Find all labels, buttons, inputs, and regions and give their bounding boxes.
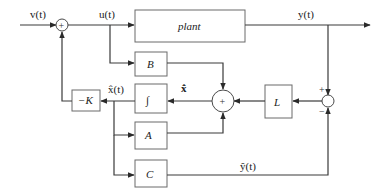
B-to-sum-line [167, 63, 223, 89]
label-v: v(t) [30, 8, 46, 21]
observer-sum-sign: + [220, 96, 226, 107]
label-xhat-dot: x̂̇ [181, 82, 187, 94]
xhat-to-A-line [114, 101, 134, 135]
label-yhat: ŷ(t) [240, 160, 256, 173]
integrator-block: ∫ [135, 84, 167, 113]
K-feedback-line [62, 32, 72, 101]
xhat-to-C-line [114, 135, 134, 175]
plant-label: plant [177, 20, 202, 32]
plant-block: plant [135, 10, 245, 42]
label-y: y(t) [298, 8, 314, 21]
gain-K-block: −K [72, 90, 100, 111]
u-to-B-line [110, 25, 134, 63]
label-xhat: x̂(t) [108, 83, 124, 96]
B-label: B [147, 58, 154, 70]
C-label: C [146, 168, 154, 180]
observer-block-diagram: v(t) + u(t) plant y(t) + − L + B [0, 0, 390, 195]
L-block: L [265, 85, 292, 118]
input-sum-sign: + [59, 20, 65, 31]
observer-sum-junction: + [212, 90, 234, 112]
input-sum-junction: + [56, 19, 68, 31]
C-block: C [135, 160, 167, 187]
label-u: u(t) [99, 8, 115, 21]
A-label: A [144, 129, 152, 141]
A-to-sum-line [167, 113, 223, 133]
L-label: L [273, 96, 280, 108]
error-minus-sign: − [319, 106, 325, 117]
A-block: A [135, 122, 167, 149]
B-block: B [135, 52, 167, 76]
error-plus-sign: + [319, 84, 325, 95]
K-label: −K [78, 94, 93, 106]
